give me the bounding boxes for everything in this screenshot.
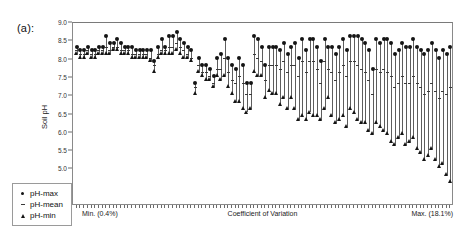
ph-min-marker [289, 95, 293, 99]
ph-max-marker [226, 56, 230, 60]
ph-max-marker [389, 41, 393, 45]
range-line [424, 54, 425, 160]
x-tick-mark [331, 205, 332, 208]
ph-max-marker [304, 48, 308, 52]
legend-label: pH-max [30, 189, 58, 198]
range-line [399, 50, 400, 138]
ph-mean-marker [327, 69, 330, 70]
x-tick-mark [272, 205, 273, 208]
ph-min-marker [426, 153, 430, 157]
ph-max-marker [341, 37, 345, 41]
ph-min-marker [263, 95, 267, 99]
ph-min-marker [248, 106, 252, 110]
range-line [328, 47, 329, 98]
ph-mean-marker [290, 65, 293, 66]
x-tick-mark [146, 205, 147, 208]
x-tick-mark [312, 205, 313, 208]
ph-max-marker [204, 63, 208, 67]
ph-max-marker [249, 81, 253, 85]
y-tick-label: 7.0 [58, 92, 67, 99]
y-tick-label: 5.0 [58, 165, 67, 172]
x-tick-mark [179, 205, 180, 208]
ph-max-marker [156, 45, 160, 49]
ph-mean-marker [305, 72, 308, 73]
ph-min-marker [278, 102, 282, 106]
x-tick-mark [250, 205, 251, 208]
ph-max-marker [112, 41, 116, 45]
range-line [302, 39, 303, 116]
x-tick-mark [394, 205, 395, 208]
ph-max-marker [330, 45, 334, 49]
ph-max-marker [234, 67, 238, 71]
ph-mean-marker [427, 91, 430, 92]
x-tick-mark [257, 205, 258, 208]
x-tick-mark [398, 205, 399, 208]
range-line [365, 43, 366, 124]
x-tick-mark [401, 205, 402, 208]
ph-min-marker [448, 179, 452, 183]
legend-item-ph-mean: pH-mean [18, 199, 63, 210]
ph-min-marker [230, 91, 234, 95]
ph-min-marker [344, 124, 348, 128]
x-tick-mark [253, 205, 254, 208]
ph-mean-marker [334, 80, 337, 81]
ph-mean-marker [308, 61, 311, 62]
ph-min-marker [411, 135, 415, 139]
x-tick-mark [349, 205, 350, 208]
x-tick-mark [405, 205, 406, 208]
ph-max-marker [223, 37, 227, 41]
ph-max-marker [315, 45, 319, 49]
x-tick-mark [368, 205, 369, 208]
x-tick-mark [379, 205, 380, 208]
ph-mean-marker [253, 54, 256, 55]
ph-max-marker [182, 41, 186, 45]
ph-mean-marker [227, 72, 230, 73]
ph-mean-marker [360, 69, 363, 70]
ph-max-marker [426, 48, 430, 52]
x-tick-mark [416, 205, 417, 208]
range-line [406, 47, 407, 146]
range-line [317, 47, 318, 117]
range-line [236, 69, 237, 102]
range-line [332, 47, 333, 117]
x-tick-mark [431, 205, 432, 208]
x-tick-mark [283, 205, 284, 208]
ph-mean-marker [179, 47, 182, 48]
ph-mean-marker [279, 69, 282, 70]
circle-marker-icon [18, 192, 27, 195]
x-tick-mark [438, 205, 439, 208]
ph-max-marker [149, 48, 153, 52]
ph-max-marker [297, 56, 301, 60]
range-line [450, 47, 451, 182]
ph-mean-marker [301, 61, 304, 62]
ph-min-marker [437, 164, 441, 168]
ph-min-marker [422, 157, 426, 161]
x-tick-mark [205, 205, 206, 208]
ph-max-marker [441, 48, 445, 52]
ph-max-marker [260, 45, 264, 49]
ph-mean-marker [371, 94, 374, 95]
x-tick-mark [235, 205, 236, 208]
ph-mean-marker [408, 83, 411, 84]
ph-mean-marker [282, 61, 285, 62]
x-tick-mark [386, 205, 387, 208]
triangle-marker-icon [18, 214, 27, 218]
ph-min-marker [318, 117, 322, 121]
ph-mean-marker [249, 94, 252, 95]
x-tick-mark [116, 205, 117, 208]
range-line [284, 43, 285, 98]
ph-max-marker [189, 48, 193, 52]
ph-mean-marker [382, 69, 385, 70]
range-line [376, 39, 377, 123]
ph-max-marker [334, 52, 338, 56]
x-tick-mark [275, 205, 276, 208]
x-tick-mark [172, 205, 173, 208]
ph-mean-marker [419, 87, 422, 88]
ph-mean-marker [245, 94, 248, 95]
range-line [391, 43, 392, 142]
ph-mean-marker [449, 87, 452, 88]
x-tick-mark [238, 205, 239, 208]
ph-max-marker [422, 52, 426, 56]
x-tick-mark [375, 205, 376, 208]
legend-item-ph-max: pH-max [18, 188, 63, 199]
